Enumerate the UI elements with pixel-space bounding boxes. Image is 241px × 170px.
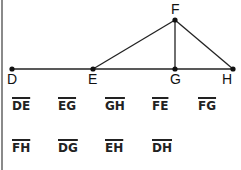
line-ef [93, 20, 175, 69]
line-fh [175, 20, 233, 69]
segment-fh: FH [12, 138, 30, 154]
segment-eh: EH [105, 138, 123, 154]
label-e: E [88, 72, 97, 86]
segment-fg: FG [198, 96, 216, 112]
segment-dg: DG [58, 138, 78, 154]
segment-dh: DH [152, 138, 172, 154]
label-f: F [171, 2, 180, 16]
label-h: H [222, 72, 232, 86]
segment-gh: GH [105, 96, 125, 112]
segment-eg: EG [58, 96, 76, 112]
label-g: G [170, 72, 181, 86]
segment-fe: FE [152, 96, 168, 112]
segment-de: DE [12, 96, 30, 112]
label-d: D [7, 72, 17, 86]
point-f [172, 17, 177, 22]
